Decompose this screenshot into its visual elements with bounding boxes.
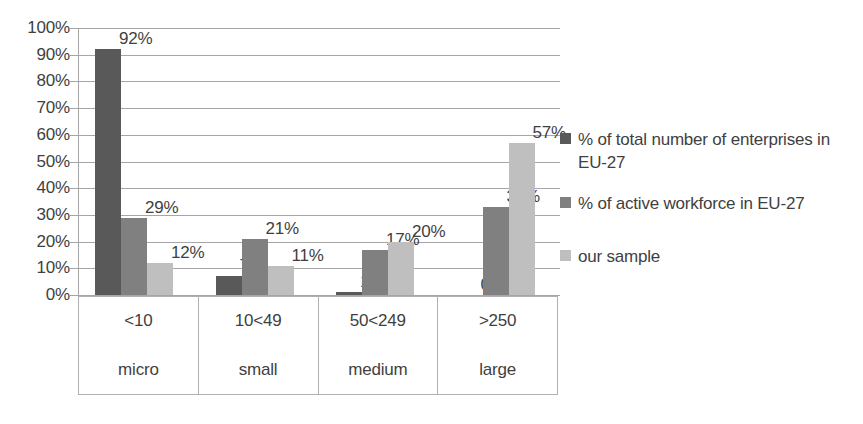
bar [362,250,388,295]
legend-swatch-icon [560,197,571,208]
bar-value-label: 92% [119,30,152,47]
y-axis-tick-mark [70,162,79,163]
category-cell: <10micro [79,297,199,394]
legend-label: % of total number of enterprises in EU-2… [578,128,856,174]
bar [121,218,147,295]
bar [95,49,121,295]
y-axis-tick-mark [70,188,79,189]
category-range-label: >250 [438,297,557,346]
category-cell: 50<249medium [319,297,439,394]
category-name-label: medium [319,346,438,395]
y-axis-tick-label: 60% [2,126,70,143]
chart-legend: % of total number of enterprises in EU-2… [560,128,860,286]
y-axis-tick-mark [70,55,79,56]
y-axis-tick-mark [70,295,79,296]
legend-item[interactable]: % of total number of enterprises in EU-2… [560,128,860,174]
y-axis-tick-label: 20% [2,233,70,250]
y-axis-tick-mark [70,215,79,216]
y-axis-tick-label: 100% [2,19,70,36]
y-axis-tick-label: 10% [2,259,70,276]
bar [509,143,535,295]
category-range-label: 50<249 [319,297,438,346]
category-range-label: <10 [79,297,198,346]
y-axis-tick-label: 40% [2,179,70,196]
category-cell: 10<49small [199,297,319,394]
category-name-label: large [438,346,557,395]
bar-value-label: 21% [266,220,299,237]
category-name-label: small [199,346,318,395]
gridline [78,55,560,56]
bar [147,263,173,295]
y-axis-tick-label: 90% [2,46,70,63]
bar [216,276,242,295]
y-axis-tick-label: 70% [2,99,70,116]
category-axis-table: <10micro10<49small50<249medium>250large [78,296,558,395]
bar [388,242,414,295]
y-axis-tick-mark [70,135,79,136]
legend-label: our sample [578,245,660,268]
legend-item[interactable]: our sample [560,245,860,268]
bar-value-label: 29% [145,199,178,216]
y-axis-tick-mark [70,81,79,82]
y-axis-tick-mark [70,242,79,243]
legend-swatch-icon [560,250,571,261]
legend-label: % of active workforce in EU-27 [578,192,804,215]
gridline [78,108,560,109]
y-axis-tick-label: 50% [2,153,70,170]
bar-value-label: 11% [292,247,324,264]
y-axis-tick-label: 0% [2,286,70,303]
plot-area: 92%29%12%7%21%11%1%17%20%0%33%57% [78,28,560,295]
bar-value-label: 20% [412,223,445,240]
y-axis-tick-label: 80% [2,72,70,89]
category-cell: >250large [438,297,557,394]
y-axis-tick-mark [70,28,79,29]
bar [336,292,362,295]
bar [483,207,509,295]
y-axis-tick-mark [70,268,79,269]
y-axis-labels: 0%10%20%30%40%50%60%70%80%90%100% [0,0,70,310]
bar-value-label: 12% [171,244,204,261]
gridline [78,188,560,189]
legend-item[interactable]: % of active workforce in EU-27 [560,192,860,215]
gridline [78,162,560,163]
legend-swatch-icon [560,133,571,144]
category-range-label: 10<49 [199,297,318,346]
bar-chart: 0%10%20%30%40%50%60%70%80%90%100% 92%29%… [0,0,863,424]
category-name-label: micro [79,346,198,395]
gridline [78,81,560,82]
y-axis-tick-label: 30% [2,206,70,223]
bar [242,239,268,295]
y-axis-tick-mark [70,108,79,109]
bar [268,266,294,295]
gridline [78,135,560,136]
